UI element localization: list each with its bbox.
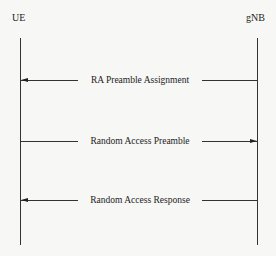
arrow-line-left xyxy=(21,80,78,81)
arrow-line-right xyxy=(202,141,257,142)
participant-gnb-label: gNB xyxy=(246,12,265,24)
message-label: Random Access Response xyxy=(78,194,202,206)
arrow-line-right xyxy=(202,80,257,81)
arrow-line-right xyxy=(202,200,257,201)
message-label: RA Preamble Assignment xyxy=(78,74,202,86)
message-label: Random Access Preamble xyxy=(78,135,202,147)
arrow-line-left xyxy=(21,141,78,142)
arrowhead-right-icon xyxy=(250,139,257,143)
gnb-lifeline xyxy=(257,38,258,245)
arrowhead-left-icon xyxy=(21,198,28,202)
participant-ue-label: UE xyxy=(12,12,25,24)
arrowhead-left-icon xyxy=(21,78,28,82)
arrow-line-left xyxy=(21,200,78,201)
